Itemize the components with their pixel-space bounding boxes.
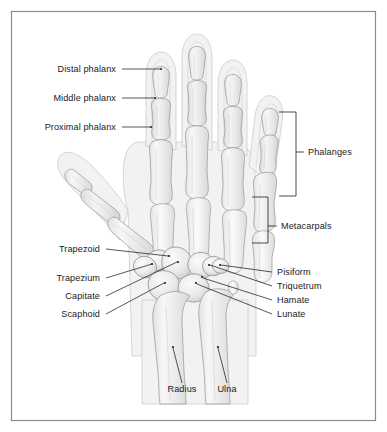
label-lunate: Lunate — [277, 309, 305, 319]
dot-trapezoid — [168, 255, 170, 257]
label-hamate: Hamate — [277, 295, 309, 305]
dot-radius — [172, 346, 174, 348]
dot-proximal-phalanx — [150, 126, 152, 128]
label-trapezoid: Trapezoid — [59, 244, 100, 254]
label-metacarpals: Metacarpals — [281, 221, 332, 231]
label-middle-phalanx: Middle phalanx — [53, 93, 116, 103]
dot-ulna — [217, 346, 219, 348]
dot-capitate — [177, 261, 179, 263]
dot-distal-phalanx — [160, 68, 162, 70]
label-radius: Radius — [168, 384, 197, 394]
label-ulna: Ulna — [217, 384, 237, 394]
dot-middle-phalanx — [154, 97, 156, 99]
dot-triquetrum — [208, 264, 210, 266]
label-scaphoid: Scaphoid — [61, 309, 100, 319]
label-pisiform: Pisiform — [277, 267, 311, 277]
hand-skeleton-diagram: Distal phalanx Middle phalanx Proximal p… — [0, 0, 387, 432]
dot-pisiform — [219, 264, 221, 266]
label-triquetrum: Triquetrum — [277, 281, 322, 291]
label-trapezium: Trapezium — [56, 273, 100, 283]
dot-scaphoid — [164, 282, 166, 284]
dot-hamate — [201, 276, 203, 278]
label-proximal-phalanx: Proximal phalanx — [45, 122, 117, 132]
dot-trapezium — [151, 263, 153, 265]
dot-lunate — [195, 282, 197, 284]
label-capitate: Capitate — [65, 291, 100, 301]
hand-anatomy-figure: Distal phalanx Middle phalanx Proximal p… — [0, 0, 387, 432]
label-distal-phalanx: Distal phalanx — [57, 64, 116, 74]
label-phalanges: Phalanges — [308, 147, 352, 157]
